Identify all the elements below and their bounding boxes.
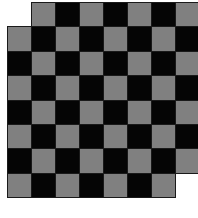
light-square — [103, 75, 128, 101]
dark-square — [151, 148, 176, 174]
light-square — [175, 51, 198, 76]
light-square — [79, 100, 104, 125]
dark-square — [103, 148, 128, 174]
light-square — [31, 100, 56, 125]
light-square — [127, 100, 152, 125]
dark-square — [175, 26, 198, 52]
dark-square — [7, 51, 32, 76]
dark-square — [55, 148, 80, 174]
dark-square — [31, 75, 56, 101]
light-square — [79, 148, 104, 174]
light-square — [55, 26, 80, 52]
light-square — [7, 75, 32, 101]
light-square — [55, 173, 80, 198]
dark-square — [103, 100, 128, 125]
dark-square — [175, 75, 198, 101]
dark-square — [79, 75, 104, 101]
light-square — [127, 51, 152, 76]
light-square — [175, 148, 198, 174]
checkerboard — [7, 2, 198, 198]
dark-square — [151, 100, 176, 125]
dark-square — [79, 173, 104, 198]
light-square — [103, 26, 128, 52]
dark-square — [7, 100, 32, 125]
dark-square — [151, 2, 176, 27]
dark-square — [175, 124, 198, 149]
dark-square — [103, 51, 128, 76]
dark-square — [127, 75, 152, 101]
light-square — [31, 2, 56, 27]
light-square — [151, 26, 176, 52]
light-square — [31, 51, 56, 76]
dark-square — [55, 100, 80, 125]
light-square — [31, 148, 56, 174]
dark-square — [127, 124, 152, 149]
dark-square — [31, 173, 56, 198]
dark-square — [31, 26, 56, 52]
dark-square — [79, 124, 104, 149]
dark-square — [7, 148, 32, 174]
light-square — [127, 148, 152, 174]
light-square — [55, 75, 80, 101]
dark-square — [127, 26, 152, 52]
light-square — [103, 124, 128, 149]
dark-square — [103, 2, 128, 27]
light-square — [79, 51, 104, 76]
light-square — [79, 2, 104, 27]
light-square — [55, 124, 80, 149]
dark-square — [31, 124, 56, 149]
light-square — [151, 75, 176, 101]
dark-square — [127, 173, 152, 198]
light-square — [127, 2, 152, 27]
light-square — [151, 124, 176, 149]
dark-square — [55, 2, 80, 27]
dark-square — [79, 26, 104, 52]
light-square — [175, 2, 198, 27]
light-square — [7, 124, 32, 149]
light-square — [175, 100, 198, 125]
light-square — [7, 26, 32, 52]
light-square — [7, 173, 32, 198]
light-square — [103, 173, 128, 198]
light-square — [151, 173, 176, 198]
dark-square — [55, 51, 80, 76]
dark-square — [151, 51, 176, 76]
